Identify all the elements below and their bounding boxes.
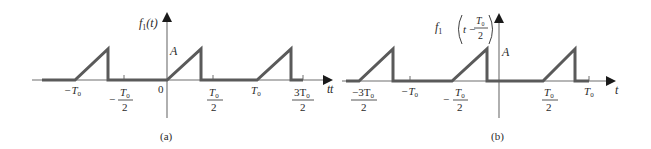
tick-label-half-den-a: 2: [211, 101, 217, 113]
tick-label-neg-three-half-den-b: 2: [361, 101, 367, 113]
tick-label-three-half-num-a: 3T0: [294, 86, 310, 100]
left-paren: [459, 15, 463, 44]
y-axis-arrow-icon: [494, 13, 504, 23]
origin-label-a: 0: [158, 83, 164, 95]
tick-label-neg-three-half-num-b: −3T0: [352, 86, 374, 100]
tick-label-half-num-b: T0: [544, 86, 554, 100]
right-paren: [489, 15, 493, 44]
tick-label-three-half-den-a: 2: [300, 101, 306, 113]
x-label-a: t: [330, 82, 334, 96]
caption-a: (a): [160, 130, 173, 143]
y-label-b: f1: [435, 20, 442, 36]
tick-label-T0-b: T0: [584, 85, 594, 99]
y-axis-arrow-icon: [162, 12, 172, 22]
tick-label-neg-half-den-b: 2: [457, 101, 463, 113]
tick-label-neg-half-num-a: T0: [120, 86, 130, 100]
figure: f1(t) A 0 t −T0 − T0 2 T0 2 T0 3T0: [0, 0, 651, 149]
amplitude-label-b: A: [501, 45, 510, 59]
tick-label-neg-half-sign-b: −: [443, 93, 449, 105]
y-label-frac-num-b: T0: [476, 15, 485, 27]
caption-b: (b): [491, 130, 504, 143]
x-label-b: t: [615, 83, 619, 97]
y-label-a: f1(t): [139, 16, 158, 32]
tick-label-half-num-a: T0: [209, 86, 219, 100]
panel-b: f1 t − T0 2 A t t −3T0 2 −T0 − T0 2: [327, 13, 619, 143]
tick-label-neg-half-num-b: T0: [455, 86, 465, 100]
tick-label-T0-a: T0: [251, 84, 261, 98]
tick-label-neg-T0-b: −T0: [401, 85, 419, 99]
tick-label-neg-half-sign-a: −: [109, 93, 115, 105]
y-label-frac-den-b: 2: [478, 30, 483, 41]
y-label-arg-b: t −: [463, 23, 476, 35]
tick-label-neg-T0-a: −T0: [64, 84, 82, 98]
panel-a: f1(t) A 0 t −T0 − T0 2 T0 2 T0 3T0: [32, 12, 334, 143]
shifted-sawtooth-signal-b: [346, 49, 589, 81]
tick-label-neg-half-den-a: 2: [122, 101, 128, 113]
amplitude-label-a: A: [169, 44, 178, 58]
tick-label-half-den-b: 2: [546, 101, 552, 113]
